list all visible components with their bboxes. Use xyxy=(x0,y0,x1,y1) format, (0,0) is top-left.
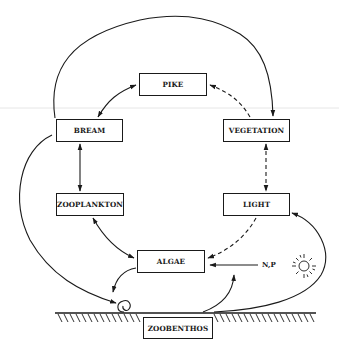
node-zoobenthos: ZOOBENTHOS xyxy=(143,317,213,339)
arrow-zoobenthos-upward xyxy=(203,275,234,312)
arrow-zooplankton-algae xyxy=(93,218,134,258)
ecosystem-diagram xyxy=(0,0,339,345)
sediment-hatching-right xyxy=(214,314,314,322)
arrow-light-to-algae-dashed xyxy=(208,218,256,258)
arrow-vegetation-to-pike-dashed xyxy=(210,85,250,117)
arrow-bream-pike xyxy=(98,85,136,117)
nutrients-label: N,P xyxy=(262,260,276,269)
node-light: LIGHT xyxy=(223,193,290,216)
node-vegetation: VEGETATION xyxy=(223,119,290,142)
arrow-bream-to-sediment xyxy=(20,135,116,303)
sun-icon xyxy=(292,254,316,278)
arrow-bream-to-vegetation-arc xyxy=(54,16,273,118)
node-pike: PIKE xyxy=(139,73,207,96)
node-bream: BREAM xyxy=(56,119,123,142)
arrow-algae-to-sediment xyxy=(113,268,136,292)
node-algae: ALGAE xyxy=(137,250,205,273)
sediment-hatching-left xyxy=(58,314,140,322)
node-zooplankton: ZOOPLANKTON xyxy=(56,193,124,216)
snail-icon xyxy=(118,301,130,312)
